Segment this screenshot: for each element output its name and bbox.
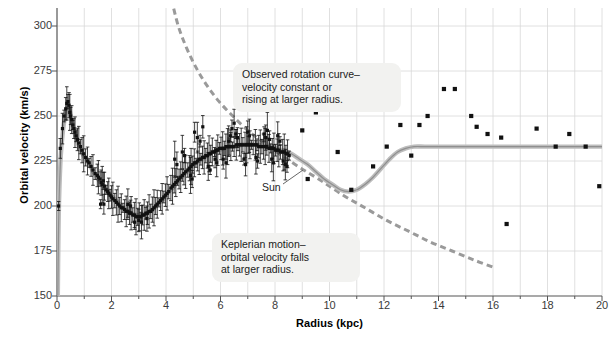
x-tick-label: 20: [582, 299, 615, 311]
x-tick-label: 16: [473, 299, 513, 311]
x-axis-title: Radius (kpc): [57, 317, 602, 329]
annotation-keplerian-motion: Keplerian motion– orbital velocity falls…: [212, 233, 360, 282]
x-tick-label: 2: [92, 299, 132, 311]
rotation-curve-figure: 150175200225250275300 02468101214161820 …: [0, 0, 615, 339]
y-axis-title: Orbital velocity (km/s): [18, 35, 30, 255]
annotation-observed-rotation-curve: Observed rotation curve– velocity consta…: [233, 63, 401, 112]
sun-label: Sun: [262, 181, 281, 193]
x-tick-label: 18: [528, 299, 568, 311]
x-axis-tick-labels: 02468101214161820: [0, 299, 615, 319]
x-tick-label: 12: [364, 299, 404, 311]
chart-plot-area: [0, 0, 615, 339]
x-tick-label: 14: [419, 299, 459, 311]
x-tick-label: 6: [201, 299, 241, 311]
y-axis-tick-labels: 150175200225250275300: [8, 0, 52, 339]
y-tick-label: 300: [12, 19, 52, 31]
x-tick-label: 4: [146, 299, 186, 311]
x-tick-label: 0: [37, 299, 77, 311]
x-tick-label: 10: [310, 299, 350, 311]
x-tick-label: 8: [255, 299, 295, 311]
